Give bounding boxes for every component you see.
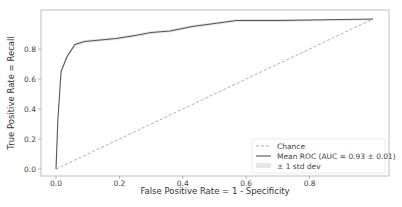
legend-std-swatch [256, 163, 271, 168]
y-tick-label: 0.4 [24, 105, 36, 114]
x-tick-label: 0.2 [113, 179, 125, 188]
legend-std-label: ± 1 std dev [277, 162, 321, 171]
legend: Chance Mean ROC (AUC = 0.93 ± 0.01) ± 1 … [252, 139, 396, 173]
y-tick-label: 0.6 [24, 75, 36, 84]
roc-chart: 0.00.20.40.60.8 0.00.20.40.60.8 False Po… [0, 0, 402, 207]
y-tick-label: 0.8 [24, 45, 36, 54]
legend-mean-roc-label: Mean ROC (AUC = 0.93 ± 0.01) [277, 152, 396, 161]
y-axis-label: True Positive Rate = Recall [6, 36, 16, 151]
y-axis-ticks: 0.00.20.40.60.8 [24, 45, 41, 174]
x-tick-label: 0.0 [50, 179, 62, 188]
y-tick-label: 0.2 [24, 135, 36, 144]
y-tick-label: 0.0 [24, 165, 36, 174]
x-tick-label: 0.8 [304, 179, 316, 188]
x-axis-label: False Positive Rate = 1 - Specificity [140, 186, 289, 196]
legend-chance-label: Chance [277, 142, 305, 151]
